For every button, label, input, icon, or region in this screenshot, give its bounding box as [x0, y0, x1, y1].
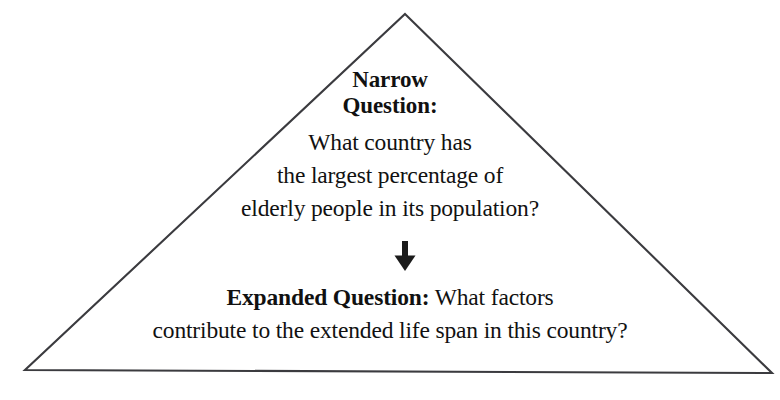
figure-text-layer: Narrow Question: What country has the la…: [0, 0, 780, 400]
narrow-question-body-line-1: What country has: [0, 131, 780, 155]
expanded-question-label: Expanded Question:: [226, 284, 429, 310]
narrow-question-body-line-2: the largest percentage of: [0, 164, 780, 188]
arrow-down-icon: [390, 240, 420, 272]
narrow-question-heading-line-2: Question:: [0, 94, 780, 117]
figure-root: Narrow Question: What country has the la…: [0, 0, 780, 400]
expanded-question-line-1-rest: What factors: [429, 284, 553, 310]
expanded-question-line-1: Expanded Question: What factors: [0, 286, 780, 310]
narrow-question-body-line-3: elderly people in its population?: [0, 197, 780, 221]
expanded-question-line-2: contribute to the extended life span in …: [0, 319, 780, 343]
narrow-question-heading-line-1: Narrow: [0, 68, 780, 91]
